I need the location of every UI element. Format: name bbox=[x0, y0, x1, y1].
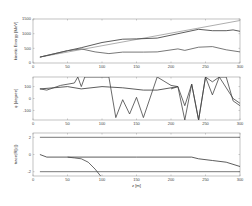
x-tick-label: 250 bbox=[202, 64, 209, 69]
subplot-1: 050100150200250300050010001500kinetic En… bbox=[13, 16, 244, 69]
x-tick-label: 0 bbox=[32, 64, 35, 69]
subplot-2: 050100150200250300-1000100φ [degree] bbox=[13, 77, 244, 126]
y-tick-label: 100 bbox=[24, 84, 31, 89]
y-axis-label: φ [degree] bbox=[13, 89, 18, 108]
x-tick-label: 50 bbox=[65, 121, 70, 126]
x-tick-label: 300 bbox=[237, 121, 244, 126]
axes-box bbox=[33, 133, 240, 176]
x-tick-label: 150 bbox=[133, 64, 140, 69]
y-tick-label: 0 bbox=[29, 152, 32, 157]
x-tick-label: 0 bbox=[32, 121, 35, 126]
subplot-3: 050100150200250300-202trace(R[z])z [m] bbox=[13, 133, 244, 188]
x-tick-label: 100 bbox=[99, 177, 106, 182]
x-tick-label: 150 bbox=[133, 177, 140, 182]
y-tick-label: 2 bbox=[29, 135, 32, 140]
axes-box bbox=[33, 19, 240, 63]
x-tick-label: 250 bbox=[202, 177, 209, 182]
x-tick-label: 300 bbox=[237, 64, 244, 69]
y-tick-label: 1500 bbox=[22, 16, 32, 21]
x-tick-label: 250 bbox=[202, 121, 209, 126]
x-tick-label: 0 bbox=[32, 177, 35, 182]
x-tick-label: 100 bbox=[99, 64, 106, 69]
x-tick-label: 200 bbox=[168, 64, 175, 69]
chart-figure: 050100150200250300050010001500kinetic En… bbox=[0, 0, 252, 206]
x-axis-label: z [m] bbox=[132, 183, 141, 188]
x-tick-label: 50 bbox=[65, 64, 70, 69]
x-tick-label: 300 bbox=[237, 177, 244, 182]
y-tick-label: -100 bbox=[23, 108, 32, 113]
x-tick-label: 200 bbox=[168, 177, 175, 182]
y-tick-label: 500 bbox=[24, 46, 31, 51]
x-tick-label: 150 bbox=[133, 121, 140, 126]
y-tick-label: -2 bbox=[27, 169, 31, 174]
y-axis-label: kinetic Energy [MeV] bbox=[13, 22, 18, 60]
y-tick-label: 1000 bbox=[22, 31, 32, 36]
x-tick-label: 50 bbox=[65, 177, 70, 182]
x-tick-label: 100 bbox=[99, 121, 106, 126]
x-tick-label: 200 bbox=[168, 121, 175, 126]
y-axis-label: trace(R[z]) bbox=[13, 144, 18, 164]
y-tick-label: 0 bbox=[29, 96, 32, 101]
